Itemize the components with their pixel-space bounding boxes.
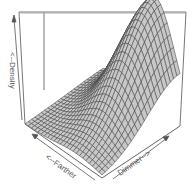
density-surface	[25, 0, 180, 175]
z-axis-label: <--Density	[8, 52, 17, 89]
x-axis-label: <--Farther	[44, 152, 79, 181]
density-surface-plot: <--Density <--Farther Dimmer-->	[0, 0, 194, 188]
